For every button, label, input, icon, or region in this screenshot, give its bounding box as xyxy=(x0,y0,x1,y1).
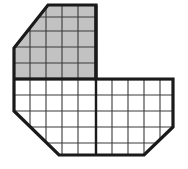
figure-container xyxy=(0,0,188,169)
grid-polygon-figure xyxy=(0,0,188,169)
